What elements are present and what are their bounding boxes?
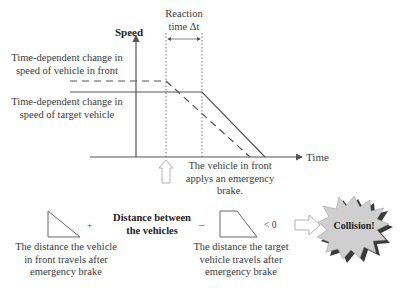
time-axis-label: Time <box>306 151 329 164</box>
plus-sign: + <box>87 219 92 232</box>
target-distance-line1: The distance the target <box>186 241 296 254</box>
distance-between-line2: the vehicles <box>108 225 196 238</box>
target-label-line1: Time-dependent change in <box>0 96 134 109</box>
brake-note-line3: brake. <box>178 185 282 198</box>
front-label-line1: Time-dependent change in <box>0 52 134 65</box>
speed-axis-label: Speed <box>115 26 143 39</box>
front-distance-triangle-icon <box>48 211 80 237</box>
target-distance-trapezoid-icon <box>220 211 257 237</box>
front-distance-line2: in front travels after <box>10 254 122 267</box>
brake-arrow-icon <box>159 160 173 183</box>
front-distance-line1: The distance the vehicle <box>10 241 122 254</box>
reaction-time-label: Reaction time Δt <box>164 8 204 33</box>
less-than-zero: < 0 <box>264 219 276 232</box>
front-vehicle-speed-label: Time-dependent change in speed of vehicl… <box>0 52 134 77</box>
front-label-line2: speed of vehicle in front <box>0 65 134 78</box>
distance-between-label: Distance between the vehicles <box>108 212 196 237</box>
reaction-label-line2: time Δt <box>164 21 204 34</box>
brake-note-line2: applys an emergency <box>178 173 282 186</box>
target-distance-caption: The distance the target vehicle travels … <box>186 241 296 279</box>
target-distance-line3: emergency brake <box>186 266 296 279</box>
target-label-line2: speed of target vehicle <box>0 109 134 122</box>
front-distance-line3: emergency brake <box>10 266 122 279</box>
distance-between-line1: Distance between <box>108 212 196 225</box>
brake-note: The vehicle in front applys an emergency… <box>178 160 282 198</box>
reaction-label-line1: Reaction <box>164 8 204 21</box>
brake-note-line1: The vehicle in front <box>178 160 282 173</box>
collision-label: Collision! <box>328 220 380 233</box>
result-arrow-icon <box>295 215 320 235</box>
front-distance-caption: The distance the vehicle in front travel… <box>10 241 122 279</box>
target-vehicle-speed-label: Time-dependent change in speed of target… <box>0 96 134 121</box>
minus-sign: – <box>199 219 204 232</box>
target-distance-line2: vehicle travels after <box>186 254 296 267</box>
